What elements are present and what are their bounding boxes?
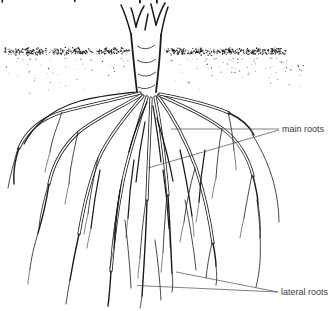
top-branches [121,3,168,35]
main-roots-callout: main roots [148,124,325,168]
thick-root [159,95,253,176]
lateral-roots-label: lateral roots [281,287,329,297]
cropped-text-remnants [2,0,158,3]
leader-line [137,286,278,293]
root-system-diagram: main roots lateral roots [0,0,331,311]
thick-root [155,97,168,195]
root-network [8,92,279,308]
leader-line [148,130,279,168]
tree-trunk [121,3,168,92]
root-tails [14,113,258,306]
thick-root [111,97,147,271]
main-roots-label: main roots [282,124,325,134]
lateral-roots-callout: lateral roots [137,272,329,297]
diagram-canvas: main roots lateral roots [0,0,331,311]
root-twigs [28,150,244,284]
leader-line [176,272,278,292]
thick-root [147,98,151,200]
